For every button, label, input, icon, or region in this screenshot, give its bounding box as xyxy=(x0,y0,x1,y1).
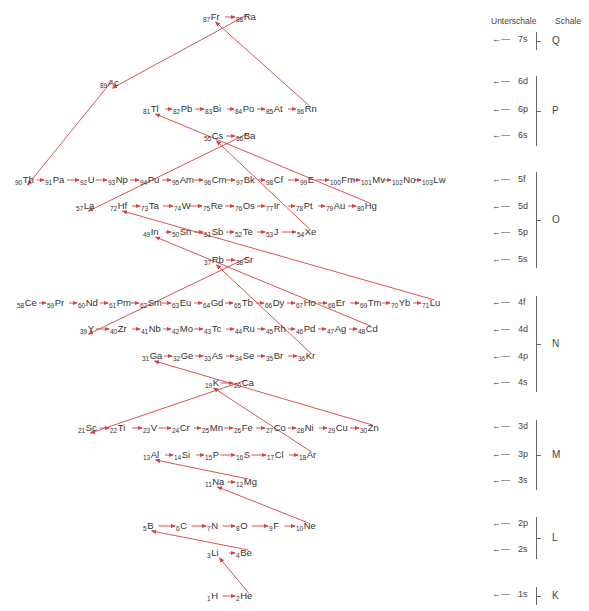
subshell-arrow-icon: ←— xyxy=(492,104,510,114)
element-tc: 43Tc xyxy=(204,324,221,336)
element-ac: 89Ac xyxy=(100,78,119,90)
element-te: 52Te xyxy=(235,227,253,239)
element-ce: 58Ce xyxy=(17,298,37,310)
atomic-number: 39 xyxy=(80,328,87,335)
element-symbol: Ne xyxy=(304,520,316,531)
atomic-number: 31 xyxy=(142,355,149,362)
element-symbol: Br xyxy=(274,350,284,361)
shell-label: M xyxy=(552,449,560,460)
element-symbol: Zn xyxy=(368,422,379,433)
element-symbol: Hf xyxy=(118,200,128,211)
subshell-arrow-icon: ←— xyxy=(492,544,510,554)
element-symbol: Ru xyxy=(243,323,255,334)
element-mg: 12Mg xyxy=(236,477,257,489)
atomic-number: 28 xyxy=(297,427,304,434)
element-symbol: Cl xyxy=(275,449,284,460)
element-np: 93Np xyxy=(108,175,128,187)
atomic-number: 88 xyxy=(236,16,243,23)
element-cr: 24Cr xyxy=(172,423,190,435)
element-k: 19K xyxy=(205,378,219,390)
element-symbol: Gd xyxy=(211,297,224,308)
element-y: 39Y xyxy=(80,324,94,336)
element-fe: 26Fe xyxy=(234,423,253,435)
element-symbol: W xyxy=(182,200,191,211)
atomic-number: 36 xyxy=(298,355,305,362)
element-symbol: P xyxy=(213,449,219,460)
element-symbol: Ra xyxy=(244,11,256,22)
element-os: 76Os xyxy=(235,201,255,213)
element-c: 6C xyxy=(176,521,187,533)
element-symbol: Si xyxy=(182,449,190,460)
element-symbol: Cd xyxy=(366,323,378,334)
element-th: 90Th xyxy=(15,175,34,187)
element-symbol: Ba xyxy=(244,130,256,141)
atomic-number: 78 xyxy=(296,205,303,212)
subshell-label: 6s xyxy=(518,130,528,140)
subshell-label: 6d xyxy=(518,76,528,86)
atomic-number: 55 xyxy=(204,135,211,142)
element-symbol: Sb xyxy=(212,226,224,237)
element-symbol: Th xyxy=(23,174,34,185)
element-symbol: Mo xyxy=(180,323,193,334)
atomic-number: 53 xyxy=(266,231,273,238)
element-symbol: Cu xyxy=(336,422,348,433)
element-symbol: C xyxy=(180,520,187,531)
element-symbol: Ce xyxy=(25,297,37,308)
element-symbol: Nb xyxy=(149,323,161,334)
atomic-number: 20 xyxy=(234,382,241,389)
atomic-number: 35 xyxy=(266,355,273,362)
element-no: 102No xyxy=(392,175,416,187)
element-symbol: Hg xyxy=(365,200,377,211)
element-symbol: Ar xyxy=(307,449,317,460)
subshell-arrow-icon: ←— xyxy=(492,518,510,528)
atomic-number: 57 xyxy=(76,205,83,212)
atomic-number: 47 xyxy=(327,328,334,335)
atomic-number: 37 xyxy=(204,259,211,266)
element-symbol: J xyxy=(274,226,279,237)
element-nb: 41Nb xyxy=(141,324,161,336)
element-he: 2He xyxy=(236,591,252,603)
atomic-number: 100 xyxy=(330,179,341,186)
element-pr: 59Pr xyxy=(47,298,64,310)
subshell-arrow-icon: ←— xyxy=(492,34,510,44)
element-co: 27Co xyxy=(266,423,286,435)
subshell-label: 3p xyxy=(518,449,528,459)
atomic-number: 103 xyxy=(422,179,433,186)
atomic-number: 56 xyxy=(236,135,243,142)
element-ta: 73Ta xyxy=(141,201,159,213)
atomic-number: 89 xyxy=(100,82,107,89)
element-ho: 67Ho xyxy=(296,298,316,310)
subshell-arrow-icon: ←— xyxy=(492,130,510,140)
element-ge: 32Ge xyxy=(173,351,193,363)
element-symbol: Yb xyxy=(399,297,411,308)
element-ir: 77Ir xyxy=(266,201,280,213)
subshell-arrow-icon: ←— xyxy=(492,589,510,599)
subshell-label: 5f xyxy=(518,174,526,184)
element-ni: 28Ni xyxy=(297,423,314,435)
element-symbol: Ac xyxy=(108,77,119,88)
atomic-number: 24 xyxy=(172,427,179,434)
subshell-arrow-icon: ←— xyxy=(492,475,510,485)
atomic-number: 34 xyxy=(235,355,242,362)
atomic-number: 29 xyxy=(328,427,335,434)
element-symbol: Co xyxy=(274,422,286,433)
element-n: 7N xyxy=(207,521,218,533)
atomic-number: 101 xyxy=(361,179,372,186)
element-am: 95Am xyxy=(172,175,194,187)
element-symbol: Ta xyxy=(149,200,159,211)
element-symbol: Ir xyxy=(274,200,280,211)
element-mo: 42Mo xyxy=(172,324,193,336)
element-ga: 31Ga xyxy=(142,351,162,363)
element-symbol: Am xyxy=(180,174,194,185)
element-la: 57La xyxy=(76,201,94,213)
atomic-number: 18 xyxy=(299,454,306,461)
element-symbol: V xyxy=(151,422,157,433)
subshell-arrow-icon: ←— xyxy=(492,174,510,184)
atomic-number: 91 xyxy=(45,179,52,186)
element-cu: 29Cu xyxy=(328,423,348,435)
subshell-arrow-icon: ←— xyxy=(492,449,510,459)
element-symbol: Fm xyxy=(341,174,355,185)
element-ba: 56Ba xyxy=(236,131,255,143)
element-symbol: Be xyxy=(240,547,252,558)
element-symbol: Al xyxy=(151,449,159,460)
